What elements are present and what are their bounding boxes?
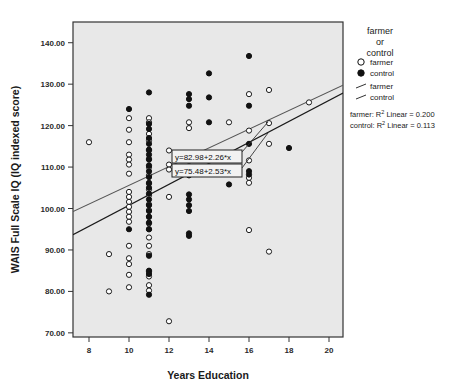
- y-axis-tick-label: 90.00: [45, 246, 66, 255]
- data-point-farmer: [106, 289, 111, 294]
- data-point-control: [146, 152, 151, 157]
- data-point-control: [146, 227, 151, 232]
- plot-area-background: [73, 22, 343, 337]
- legend-title-line-2: or: [376, 37, 384, 47]
- data-point-farmer: [126, 162, 131, 167]
- x-axis-tick-label: 16: [245, 346, 254, 355]
- data-point-farmer: [126, 219, 131, 224]
- data-point-control: [146, 271, 151, 276]
- data-point-farmer: [106, 252, 111, 257]
- data-point-control: [146, 121, 151, 126]
- y-axis-tick-label: 70.00: [45, 329, 66, 338]
- data-point-control: [186, 96, 191, 101]
- y-axis-title: WAIS Full Scale IQ (IQ indexed score): [9, 86, 21, 273]
- y-axis-tick-label: 110.00: [41, 163, 66, 172]
- data-point-farmer: [246, 227, 251, 232]
- data-point-farmer: [126, 157, 131, 162]
- data-point-farmer: [146, 283, 151, 288]
- data-point-control: [146, 208, 151, 213]
- data-point-control: [126, 106, 131, 111]
- data-point-farmer: [166, 194, 171, 199]
- data-point-control: [146, 157, 151, 162]
- data-point-control: [146, 292, 151, 297]
- data-point-control: [126, 227, 131, 232]
- data-point-control: [186, 233, 191, 238]
- data-point-control: [206, 71, 211, 76]
- data-point-farmer: [126, 199, 131, 204]
- data-point-control: [146, 141, 151, 146]
- legend-title-line-3: control: [366, 48, 393, 58]
- data-point-control: [146, 126, 151, 131]
- data-point-farmer: [166, 148, 171, 153]
- x-axis-tick-label: 12: [165, 346, 174, 355]
- y-axis-tick-label: 130.00: [41, 80, 66, 89]
- legend-marker-open-circle: [358, 59, 364, 65]
- data-point-farmer: [246, 92, 251, 97]
- data-point-farmer: [126, 285, 131, 290]
- data-point-farmer: [126, 209, 131, 214]
- data-point-farmer: [166, 319, 171, 324]
- equation-label-1: y=82.98+2.26*x: [175, 153, 231, 162]
- equation-label-2: y=75.48+2.53*x: [175, 167, 231, 176]
- data-point-farmer: [186, 126, 191, 131]
- legend-entry-label-3: farmer: [370, 82, 393, 91]
- data-point-farmer: [126, 127, 131, 132]
- data-point-farmer: [126, 140, 131, 145]
- data-point-control: [146, 203, 151, 208]
- data-point-control: [146, 220, 151, 225]
- data-point-farmer: [266, 141, 271, 146]
- y-axis-tick-label: 120.00: [41, 122, 66, 131]
- data-point-farmer: [126, 272, 131, 277]
- y-axis-tick-label: 100.00: [41, 205, 66, 214]
- data-point-control: [146, 185, 151, 190]
- data-point-farmer: [146, 235, 151, 240]
- data-point-farmer: [126, 189, 131, 194]
- legend-line-swatch: [356, 95, 366, 99]
- data-point-farmer: [126, 204, 131, 209]
- legend-entry-label-4: control: [370, 93, 394, 102]
- data-point-control: [186, 92, 191, 97]
- data-point-control: [146, 191, 151, 196]
- data-point-farmer: [146, 243, 151, 248]
- r2-annotation-2: control: R2 Linear = 0.113: [350, 120, 435, 130]
- r2-annotation-1: farmer: R2 Linear = 0.200: [350, 109, 435, 119]
- data-point-control: [146, 147, 151, 152]
- data-point-control: [146, 135, 151, 140]
- data-point-control: [226, 182, 231, 187]
- data-point-control: [146, 214, 151, 219]
- data-point-control: [146, 197, 151, 202]
- y-axis-tick-label: 80.00: [45, 287, 66, 296]
- data-point-farmer: [266, 249, 271, 254]
- data-point-farmer: [246, 128, 251, 133]
- data-point-farmer: [126, 256, 131, 261]
- data-point-control: [206, 120, 211, 125]
- legend-line-swatch: [356, 84, 366, 88]
- data-point-control: [146, 253, 151, 258]
- data-point-farmer: [186, 120, 191, 125]
- legend-marker-filled-circle: [358, 70, 364, 76]
- data-point-control: [206, 95, 211, 100]
- legend-entry-label-1: farmer: [370, 58, 393, 67]
- data-point-farmer: [226, 120, 231, 125]
- data-point-farmer: [266, 87, 271, 92]
- data-point-farmer: [86, 140, 91, 145]
- data-point-farmer: [126, 214, 131, 219]
- data-point-farmer: [166, 167, 171, 172]
- data-point-control: [146, 169, 151, 174]
- data-point-farmer: [306, 100, 311, 105]
- data-point-control: [146, 180, 151, 185]
- data-point-control: [186, 103, 191, 108]
- data-point-control: [146, 163, 151, 168]
- x-axis-tick-label: 14: [205, 346, 214, 355]
- data-point-control: [286, 145, 291, 150]
- data-point-farmer: [126, 243, 131, 248]
- chart-figure: 810121416182070.0080.0090.00100.00110.00…: [0, 0, 453, 392]
- data-point-farmer: [166, 162, 171, 167]
- data-point-farmer: [126, 116, 131, 121]
- data-point-control: [246, 172, 251, 177]
- data-point-control: [186, 197, 191, 202]
- legend-title-line-1: farmer: [367, 26, 393, 36]
- scatter-plot: 810121416182070.0080.0090.00100.00110.00…: [0, 0, 453, 392]
- data-point-control: [146, 90, 151, 95]
- data-point-farmer: [126, 261, 131, 266]
